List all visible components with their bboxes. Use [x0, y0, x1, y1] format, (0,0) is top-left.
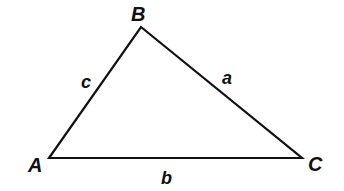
side-label-a: a — [222, 68, 232, 88]
vertex-label-c: C — [308, 153, 323, 175]
vertex-label-b: B — [131, 3, 145, 25]
triangle-diagram: B A C c a b — [0, 0, 344, 191]
side-label-b: b — [161, 168, 172, 188]
side-label-c: c — [81, 72, 91, 92]
vertex-label-a: A — [27, 154, 42, 176]
triangle-shape — [49, 27, 302, 158]
